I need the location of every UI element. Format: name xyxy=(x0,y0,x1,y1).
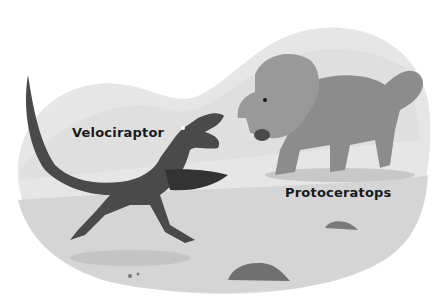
velociraptor-label: Velociraptor xyxy=(72,125,164,140)
velociraptor-shadow xyxy=(70,250,190,266)
dinosaur-scene xyxy=(0,0,443,305)
pebble xyxy=(128,274,132,278)
protoceratops-label: Protoceratops xyxy=(285,185,392,200)
pebble xyxy=(137,273,140,276)
